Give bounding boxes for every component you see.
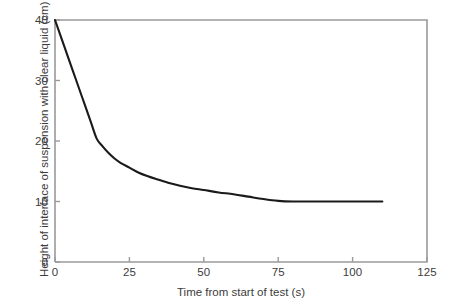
x-tick-label: 100 <box>343 266 363 278</box>
x-tick-label: 125 <box>417 266 437 278</box>
x-tick-label: 25 <box>123 266 136 278</box>
x-axis-title: Time from start of test (s) <box>55 286 427 298</box>
y-axis-title: Height of interface of suspension with c… <box>38 17 50 277</box>
chart-plot-area <box>0 0 453 308</box>
data-series-line-interface-height <box>55 20 382 202</box>
x-tick-label: 50 <box>197 266 210 278</box>
x-tick-label: 0 <box>52 266 59 278</box>
plot-frame-border <box>55 20 427 262</box>
sedimentation-chart-figure: 010203040 0255075100125 Time from start … <box>0 0 453 308</box>
x-tick-label: 75 <box>272 266 285 278</box>
